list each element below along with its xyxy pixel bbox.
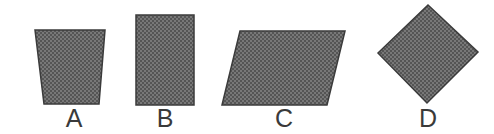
shape-d-rotated-square (378, 5, 478, 103)
shape-a-trapezoid (35, 30, 105, 104)
shape-d-label: D (408, 106, 448, 131)
shape-b-label: B (145, 106, 185, 131)
shape-b-rectangle (136, 15, 194, 105)
shapes-figure: A B C D (0, 0, 494, 134)
shape-c-label: C (264, 106, 304, 131)
shape-c-parallelogram (222, 31, 345, 105)
shape-a-label: A (54, 106, 94, 131)
